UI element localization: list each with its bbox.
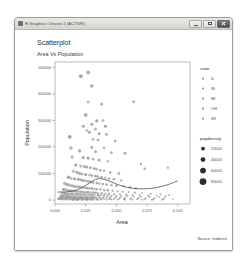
scatter-point: [93, 188, 96, 191]
scatter-point: [76, 193, 79, 196]
scatter-point: [87, 156, 90, 159]
scatter-point: [105, 133, 108, 136]
scatter-point: [90, 84, 93, 87]
scatter-point: [99, 194, 101, 196]
scatter-point: [103, 170, 106, 173]
legend-state-key: [202, 108, 204, 110]
scatter-point: [129, 198, 131, 200]
scatter-point: [79, 178, 82, 181]
scatter-point: [134, 191, 136, 193]
scatter-point: [78, 149, 81, 152]
scatter-point: [78, 193, 81, 196]
scatter-point: [156, 195, 158, 197]
scatter-point: [73, 177, 76, 180]
plot-panel: [55, 62, 190, 204]
scatter-point: [128, 191, 130, 193]
scatter-point: [79, 190, 82, 193]
scatter-point: [70, 198, 73, 201]
scatter-point: [108, 177, 111, 180]
scatter-point: [106, 199, 108, 201]
scatter-point: [99, 188, 101, 190]
scatter-point: [141, 192, 143, 194]
scatter-point: [84, 173, 87, 176]
legend-state-title: state: [200, 66, 210, 71]
scatter-point: [83, 165, 86, 168]
scatter-point: [100, 192, 102, 194]
scatter-point: [95, 119, 98, 122]
scatter-point: [81, 199, 83, 201]
scatter-point: [102, 183, 105, 186]
x-tick-label: 0.000: [50, 208, 61, 213]
legend-popdensity-key: [200, 168, 206, 174]
scatter-point: [109, 171, 112, 174]
scatter-point: [67, 198, 70, 201]
y-axis-label: Population: [24, 120, 30, 145]
scatter-point: [69, 146, 73, 150]
scatter-point: [97, 175, 100, 178]
scatter-point: [86, 187, 89, 190]
scatter-point: [115, 184, 117, 186]
scatter-point: [86, 129, 89, 132]
scatter-point: [91, 187, 94, 190]
r-graphics-icon: [18, 21, 23, 26]
scatter-point: [110, 151, 113, 154]
scatter-point: [108, 198, 110, 200]
legend-state-label: MI: [211, 96, 215, 101]
scatter-point: [136, 198, 138, 200]
legend-popdensity-label: 20000: [211, 146, 223, 151]
scatter-point: [57, 198, 60, 201]
scatter-point: [151, 199, 153, 201]
scatter-point: [93, 194, 95, 196]
scatter-point: [86, 71, 90, 75]
scatter-point: [88, 174, 91, 177]
scatter-point: [150, 193, 152, 195]
scatter-point: [94, 192, 97, 195]
scatter-point: [72, 170, 75, 173]
scatter-point: [84, 180, 87, 183]
y-tick-label: 400000: [38, 91, 52, 96]
scatter-point: [103, 189, 105, 191]
scatter-point: [76, 185, 79, 188]
scatter-point: [60, 198, 63, 201]
scatter-point: [118, 172, 121, 175]
scatter-point: [103, 147, 106, 150]
legend-popdensity-label: 40000: [211, 157, 223, 162]
scatter-point: [107, 195, 109, 197]
scatter-point: [83, 193, 86, 196]
legend-state-label: WI: [211, 116, 216, 121]
scatter-point: [105, 183, 108, 186]
scatter-point: [99, 169, 102, 172]
scatter-point: [90, 174, 93, 177]
scatter-point: [141, 199, 143, 201]
minimize-button[interactable]: [189, 20, 202, 28]
scatter-point: [94, 127, 97, 130]
scatter-point: [73, 193, 76, 196]
scatter-point: [116, 190, 118, 192]
scatter-point: [97, 139, 100, 142]
scatter-point: [100, 176, 103, 179]
maximize-button[interactable]: [203, 20, 216, 28]
scatter-point: [85, 166, 88, 169]
window-title-bar[interactable]: R Graphics: Device 2 (ACTIVE): [15, 18, 232, 30]
scatter-point: [93, 167, 96, 170]
scatter-point: [101, 199, 103, 201]
scatter-point: [172, 199, 174, 201]
scatter-point: [81, 193, 84, 196]
close-button[interactable]: [217, 20, 230, 28]
y-tick-label: 500000: [38, 65, 52, 70]
scatter-point: [71, 184, 74, 187]
scatterplot-figure: Scatterplot Area Vs Population 0.0000.02…: [15, 30, 232, 251]
scatter-point: [144, 198, 146, 200]
scatter-point: [79, 74, 83, 78]
scatter-point: [79, 164, 82, 167]
scatter-point: [104, 125, 107, 128]
legend-state-label: OH: [211, 106, 217, 111]
scatter-point: [72, 199, 74, 201]
y-tick-label: 300000: [38, 118, 52, 123]
scatter-point: [76, 199, 78, 201]
scatter-point: [126, 195, 128, 197]
scatter-point: [88, 131, 91, 134]
scatter-point: [91, 194, 94, 197]
chart-caption: Source: midwest: [197, 236, 227, 241]
scatter-point: [82, 125, 85, 128]
